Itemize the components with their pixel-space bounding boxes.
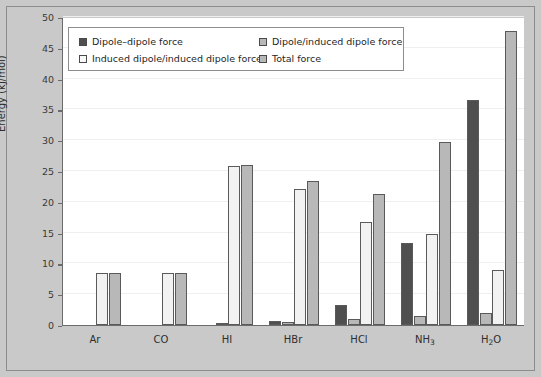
- bar: [307, 181, 319, 325]
- gridline: [63, 170, 524, 171]
- bar: [269, 321, 281, 325]
- bar: [294, 189, 306, 325]
- bar: [96, 273, 108, 325]
- y-tick-mark: [58, 110, 62, 111]
- x-tick-label: H2O: [458, 334, 524, 345]
- y-tick-mark: [58, 264, 62, 265]
- y-tick-mark: [58, 172, 62, 173]
- gridline: [63, 16, 524, 17]
- bar: [360, 222, 372, 325]
- legend-swatch-icon: [79, 38, 87, 46]
- legend-label: Induced dipole/induced dipole force: [92, 53, 262, 64]
- legend-label: Dipole/induced dipole force: [272, 36, 402, 47]
- y-tick-label: 40: [42, 74, 54, 85]
- bar: [505, 31, 517, 325]
- y-tick-label: 45: [42, 43, 54, 54]
- x-tick-label: HI: [194, 334, 260, 345]
- bar: [426, 234, 438, 325]
- y-tick-mark: [58, 18, 62, 19]
- y-tick-mark: [58, 203, 62, 204]
- legend-swatch-icon: [259, 55, 267, 63]
- y-tick-label: 25: [42, 166, 54, 177]
- y-tick-label: 10: [42, 258, 54, 269]
- chart-figure: Energy (kJ/mol) Dipole–dipole forceDipol…: [0, 0, 541, 377]
- bar: [467, 100, 479, 325]
- y-tick-mark: [58, 141, 62, 142]
- legend-item: Dipole/induced dipole force: [259, 36, 402, 47]
- x-tick-label: Ar: [62, 334, 128, 345]
- gridline: [63, 139, 524, 140]
- bar: [175, 273, 187, 325]
- bar: [401, 243, 413, 325]
- gridline: [63, 78, 524, 79]
- bar: [228, 166, 240, 325]
- bar: [348, 319, 360, 325]
- x-tick-label: HCl: [326, 334, 392, 345]
- legend-label: Dipole–dipole force: [92, 36, 183, 47]
- bar: [282, 322, 294, 325]
- bar: [492, 270, 504, 325]
- legend-swatch-icon: [259, 38, 267, 46]
- bar: [414, 316, 426, 325]
- legend-label: Total force: [272, 53, 321, 64]
- x-tick-label: NH3: [392, 334, 458, 345]
- y-tick-label: 20: [42, 197, 54, 208]
- bar: [162, 273, 174, 325]
- y-tick-label: 35: [42, 104, 54, 115]
- y-tick-label: 15: [42, 228, 54, 239]
- chart-legend: Dipole–dipole forceDipole/induced dipole…: [68, 27, 404, 71]
- y-tick-mark: [58, 80, 62, 81]
- x-tick-label: CO: [128, 334, 194, 345]
- bar: [109, 273, 121, 325]
- bar: [373, 194, 385, 325]
- bar: [480, 313, 492, 325]
- legend-item: Induced dipole/induced dipole force: [79, 53, 262, 64]
- x-tick-label: HBr: [260, 334, 326, 345]
- y-tick-mark: [58, 295, 62, 296]
- y-axis-label: Energy (kJ/mol): [0, 55, 7, 132]
- y-tick-label: 0: [48, 320, 54, 331]
- y-tick-label: 50: [42, 12, 54, 23]
- gridline: [63, 108, 524, 109]
- y-tick-label: 30: [42, 135, 54, 146]
- y-tick-mark: [58, 234, 62, 235]
- y-tick-label: 5: [48, 289, 54, 300]
- legend-item: Total force: [259, 53, 321, 64]
- y-tick-mark: [58, 49, 62, 50]
- bar: [335, 305, 347, 325]
- legend-item: Dipole–dipole force: [79, 36, 183, 47]
- bar: [241, 165, 253, 325]
- bar: [439, 142, 451, 325]
- bar: [216, 323, 228, 325]
- legend-swatch-icon: [79, 55, 87, 63]
- y-tick-mark: [58, 326, 62, 327]
